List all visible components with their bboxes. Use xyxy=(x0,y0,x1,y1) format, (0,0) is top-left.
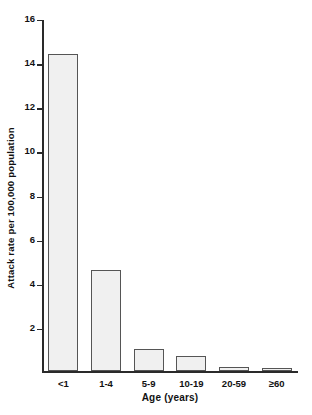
y-axis-tick-mark xyxy=(37,20,42,21)
y-axis-tick-label: 8 xyxy=(30,190,35,201)
x-axis-tick-label: 20-59 xyxy=(222,378,246,389)
y-axis-tick-label: 16 xyxy=(24,13,35,24)
y-axis-tick-mark xyxy=(37,241,42,242)
bar xyxy=(176,356,206,371)
y-axis-tick-label: 6 xyxy=(30,234,35,245)
y-axis-line xyxy=(42,20,44,373)
x-axis-tick-label: 10-19 xyxy=(179,378,203,389)
y-axis-tick-mark xyxy=(37,108,42,109)
x-axis-tick-label: <1 xyxy=(58,378,69,389)
x-axis-line xyxy=(42,371,298,373)
y-axis-tick-mark xyxy=(37,152,42,153)
x-axis-tick-label: 1-4 xyxy=(99,378,113,389)
y-axis-tick-mark xyxy=(37,197,42,198)
bar xyxy=(134,349,164,371)
y-axis-tick-mark xyxy=(37,285,42,286)
y-axis-tick-label: 14 xyxy=(24,57,35,68)
x-axis-tick-label: 5-9 xyxy=(142,378,156,389)
bar xyxy=(91,270,121,371)
x-axis-label: Age (years) xyxy=(42,392,298,403)
bar-chart-figure: Attack rate per 100,000 population 16141… xyxy=(0,0,312,415)
bar xyxy=(219,367,249,371)
y-axis-tick-label: 2 xyxy=(30,322,35,333)
y-axis-tick-mark xyxy=(37,64,42,65)
y-axis-tick-mark xyxy=(37,329,42,330)
y-axis-tick-label: 10 xyxy=(24,145,35,156)
bar xyxy=(48,54,78,372)
y-axis-tick-label: 12 xyxy=(24,101,35,112)
plot-area: 161412108642 <11-45-910-1920-59≥60 xyxy=(42,20,298,373)
x-axis-tick-label: ≥60 xyxy=(269,378,285,389)
y-axis-label: Attack rate per 100,000 population xyxy=(0,0,20,415)
y-axis-label-text: Attack rate per 100,000 population xyxy=(5,127,16,289)
y-axis-tick-label: 4 xyxy=(30,278,35,289)
bar xyxy=(262,368,292,371)
